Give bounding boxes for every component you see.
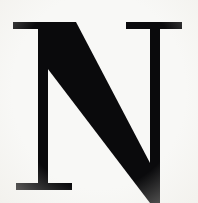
top-left-serif: [13, 22, 70, 29]
letter-image-canvas: N: [0, 0, 198, 203]
left-vertical-stem: [38, 22, 48, 190]
capital-letter-n-glyph: N: [0, 0, 198, 203]
diagonal-stroke: [38, 22, 160, 203]
bottom-left-serif: [16, 183, 72, 190]
right-vertical-stem: [150, 22, 160, 203]
top-right-serif: [126, 22, 182, 29]
